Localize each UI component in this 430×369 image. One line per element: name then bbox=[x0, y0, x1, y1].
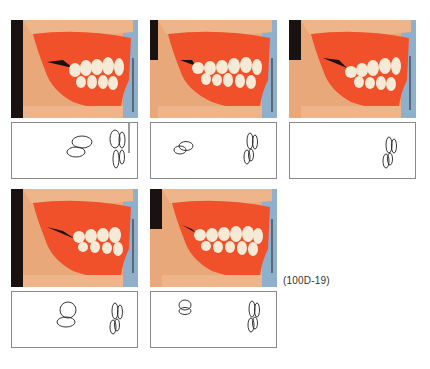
occlusion-diagram-1 bbox=[11, 122, 138, 179]
denture-photo-5 bbox=[150, 189, 277, 287]
figure-caption: (100D-19) bbox=[283, 275, 330, 286]
denture-photo-1 bbox=[11, 20, 138, 118]
occlusion-diagram-4 bbox=[11, 291, 138, 348]
occlusion-diagram-2 bbox=[150, 122, 277, 179]
denture-photo-3 bbox=[289, 20, 416, 118]
denture-photo-4 bbox=[11, 189, 138, 287]
occlusion-diagram-3 bbox=[289, 122, 416, 179]
denture-photo-2 bbox=[150, 20, 277, 118]
occlusion-diagram-5 bbox=[150, 291, 277, 348]
